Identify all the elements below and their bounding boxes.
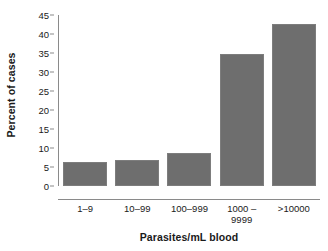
x-axis-line <box>58 199 320 200</box>
y-axis-tick-mark <box>50 91 54 92</box>
y-axis-tick-mark <box>50 34 54 35</box>
x-axis-tick-label: >10000 <box>268 203 320 225</box>
x-axis-tick-labels: 1–910–99100–9991000 –9999>10000 <box>59 203 320 225</box>
x-axis-tick-label: 100–999 <box>163 203 215 225</box>
bar <box>167 153 211 186</box>
y-axis-tick-label: 35 <box>38 48 49 59</box>
y-axis-tick-label: 0 <box>44 181 49 192</box>
y-axis-tick-label: 20 <box>38 105 49 116</box>
bar-slot <box>216 15 268 186</box>
y-axis-tick-label: 45 <box>38 10 49 21</box>
x-axis-tick-label-line: >10000 <box>268 203 320 214</box>
y-axis-tick-label: 10 <box>38 143 49 154</box>
y-axis-tick-labels: 454035302520151050 <box>22 9 54 191</box>
x-axis-tick-label-line: 1–9 <box>59 203 111 214</box>
y-axis-tick-mark <box>50 129 54 130</box>
y-axis-title: Percent of cases <box>0 0 22 190</box>
x-axis-tick-label: 1–9 <box>59 203 111 225</box>
x-axis-tick-label-line: 10–99 <box>111 203 163 214</box>
bar-slot <box>163 15 215 186</box>
y-axis-tick-label: 5 <box>44 162 49 173</box>
bar <box>220 54 264 186</box>
bar-slot <box>59 15 111 186</box>
y-axis-title-text: Percent of cases <box>5 52 17 137</box>
bar <box>63 162 107 186</box>
y-axis-tick-mark <box>50 53 54 54</box>
y-axis-tick-label: 15 <box>38 124 49 135</box>
y-axis-tick-mark <box>50 15 54 16</box>
y-axis-tick-label: 30 <box>38 67 49 78</box>
x-axis-tick-label-line: 9999 <box>216 214 268 225</box>
x-axis-tick-label: 10–99 <box>111 203 163 225</box>
y-axis-tick-label: 40 <box>38 29 49 40</box>
y-axis-tick-mark <box>50 167 54 168</box>
bar <box>272 24 316 186</box>
bar <box>115 160 159 186</box>
x-axis-tick-label: 1000 –9999 <box>216 203 268 225</box>
y-axis-tick-mark <box>50 72 54 73</box>
bar-series <box>59 15 320 186</box>
bar-slot <box>268 15 320 186</box>
bar-slot <box>111 15 163 186</box>
y-axis-tick-mark <box>50 110 54 111</box>
x-axis-tick-label-line: 1000 – <box>216 203 268 214</box>
plot-area <box>58 15 320 186</box>
chart-figure: Percent of cases 454035302520151050 1–91… <box>0 0 328 251</box>
x-axis-tick-label-line: 100–999 <box>163 203 215 214</box>
y-axis-tick-mark <box>50 186 54 187</box>
y-axis-tick-label: 25 <box>38 86 49 97</box>
x-axis-title: Parasites/mL blood <box>58 231 320 243</box>
y-axis-tick-mark <box>50 148 54 149</box>
